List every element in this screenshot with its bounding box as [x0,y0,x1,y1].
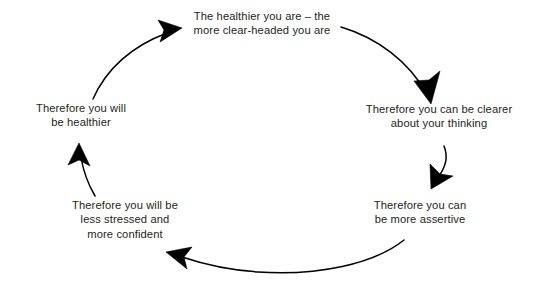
arrowhead [430,164,453,189]
node-clearer-thinking: Therefore you can be clearer about your … [351,102,527,131]
arrowhead [414,71,440,104]
cycle-arrows-svg [0,0,537,293]
arrowhead [68,143,90,166]
arrow-right-to-bottomright [430,146,453,189]
arrow-bottomleft-to-left [68,143,95,196]
arrowhead [166,247,192,269]
arrow-top-to-right [341,27,440,104]
node-less-stressed-more-confident: Therefore you will be less stressed and … [42,198,208,241]
node-will-be-healthier: Therefore you will be healthier [12,101,150,130]
node-healthier-clear-headed: The healthier you are – the more clear-h… [178,9,346,38]
arrow-left-to-top [93,20,182,99]
node-more-assertive: Therefore you can be more assertive [352,198,488,227]
arrow-bottomright-to-bottomleft [166,240,404,273]
cycle-diagram: The healthier you are – the more clear-h… [0,0,537,293]
